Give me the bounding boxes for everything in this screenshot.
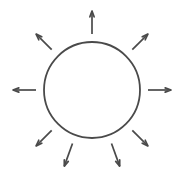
radiating-arrows-figure [0, 0, 184, 183]
arrow-down-right-steep-icon [112, 144, 120, 167]
arrow-up-right-icon [132, 34, 148, 50]
arrow-right-icon [148, 88, 171, 92]
diagram-canvas [0, 0, 184, 183]
arrow-up-right-shaft [132, 34, 148, 50]
center-circle [44, 42, 140, 138]
arrow-down-right-steep-shaft [112, 144, 120, 167]
arrow-left-icon [13, 88, 36, 92]
arrow-down-right-icon [132, 130, 148, 146]
arrow-up-icon [90, 11, 94, 34]
arrow-down-left-steep-shaft [64, 144, 72, 167]
arrow-up-left-shaft [36, 34, 52, 50]
arrow-down-right-shaft [132, 130, 148, 146]
arrow-down-left-icon [36, 130, 52, 146]
arrow-down-left-steep-icon [64, 144, 72, 167]
arrow-down-left-shaft [36, 130, 52, 146]
arrow-up-left-icon [36, 34, 52, 50]
arrows-group [13, 11, 171, 166]
